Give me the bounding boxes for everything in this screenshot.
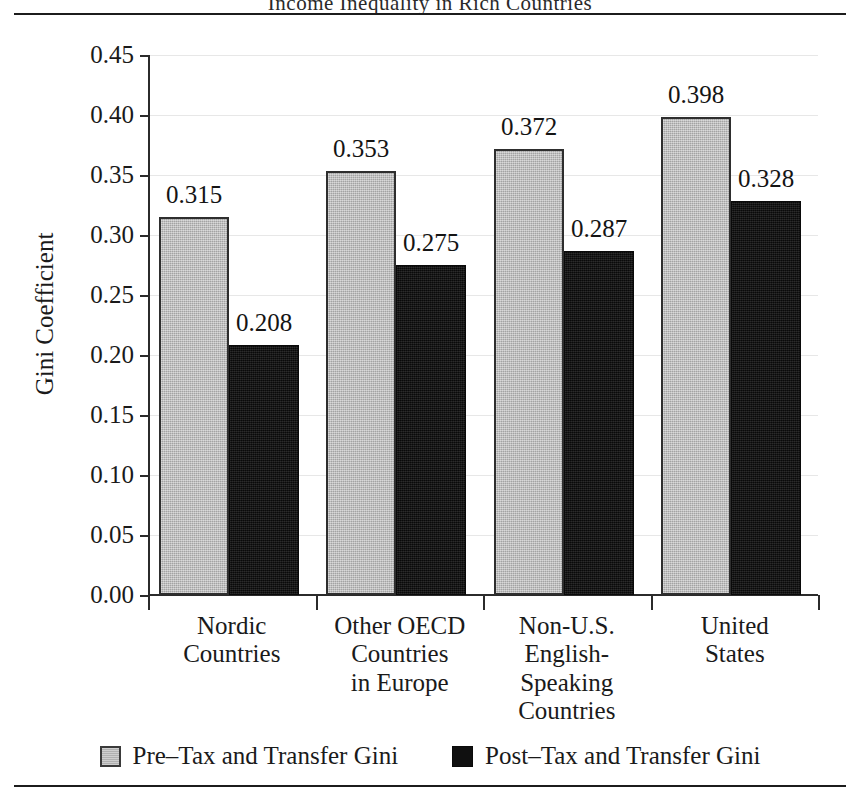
y-axis-tick-label: 0.05 bbox=[50, 522, 134, 547]
y-axis-tick-label-wrap: 0.25 bbox=[50, 282, 134, 308]
x-axis-tick bbox=[148, 595, 150, 610]
gini-bar-chart: Gini Coefficient 0.450.400.350.300.250.2… bbox=[0, 0, 860, 799]
y-axis-tick-label-wrap: 0.15 bbox=[50, 402, 134, 428]
legend-label-pre-tax: Pre–Tax and Transfer Gini bbox=[133, 742, 399, 770]
y-axis-tick-label: 0.10 bbox=[50, 462, 134, 487]
bar-post-tax bbox=[396, 265, 466, 595]
legend-item-post-tax: Post–Tax and Transfer Gini bbox=[452, 742, 760, 770]
y-axis-tick-label-wrap: 0.45 bbox=[50, 42, 134, 68]
chart-legend: Pre–Tax and Transfer Gini Post–Tax and T… bbox=[0, 742, 860, 770]
y-axis-tick-label: 0.00 bbox=[50, 582, 134, 607]
y-axis-tick-label-wrap: 0.30 bbox=[50, 222, 134, 248]
bar-value-label: 0.372 bbox=[474, 114, 584, 139]
y-axis-tick bbox=[140, 355, 149, 357]
y-axis-tick-label: 0.30 bbox=[50, 222, 134, 247]
y-axis-tick-label-wrap: 0.40 bbox=[50, 102, 134, 128]
bar-value-label: 0.353 bbox=[306, 136, 416, 161]
x-axis-category-label: Nordic Countries bbox=[148, 612, 316, 669]
bar-post-tax bbox=[731, 201, 801, 595]
y-axis-tick bbox=[140, 535, 149, 537]
x-axis-category-label: Other OECD Countries in Europe bbox=[316, 612, 484, 697]
bar-value-label: 0.328 bbox=[711, 166, 821, 191]
x-axis-tick bbox=[483, 595, 485, 610]
y-axis-tick bbox=[140, 55, 149, 57]
bar-value-label: 0.315 bbox=[139, 182, 249, 207]
y-axis-tick-label: 0.35 bbox=[50, 162, 134, 187]
x-axis-tick bbox=[316, 595, 318, 610]
x-axis-category-label: United States bbox=[651, 612, 819, 669]
bar-value-label: 0.275 bbox=[376, 230, 486, 255]
x-axis-tick bbox=[651, 595, 653, 610]
x-axis-category-label: Non-U.S. English- Speaking Countries bbox=[483, 612, 651, 725]
legend-item-pre-tax: Pre–Tax and Transfer Gini bbox=[100, 742, 399, 770]
y-axis-line bbox=[148, 55, 150, 596]
y-axis-tick bbox=[140, 295, 149, 297]
legend-label-post-tax: Post–Tax and Transfer Gini bbox=[485, 742, 760, 770]
bar-post-tax bbox=[229, 345, 299, 595]
y-axis-tick-label-wrap: 0.00 bbox=[50, 582, 134, 608]
y-axis-tick bbox=[140, 175, 149, 177]
y-axis-tick bbox=[140, 235, 149, 237]
y-axis-tick-label: 0.15 bbox=[50, 402, 134, 427]
y-axis-tick bbox=[140, 115, 149, 117]
bar-pre-tax bbox=[159, 217, 229, 595]
x-axis-tick bbox=[818, 595, 820, 610]
y-axis-tick bbox=[140, 475, 149, 477]
y-axis-tick-label: 0.45 bbox=[50, 42, 134, 67]
y-axis-tick-label-wrap: 0.10 bbox=[50, 462, 134, 488]
y-axis-tick-label: 0.20 bbox=[50, 342, 134, 367]
gridline bbox=[150, 55, 818, 56]
legend-swatch-gray-icon bbox=[100, 746, 121, 767]
y-axis-tick-label-wrap: 0.35 bbox=[50, 162, 134, 188]
bar-value-label: 0.208 bbox=[209, 310, 319, 335]
y-axis-tick-label: 0.40 bbox=[50, 102, 134, 127]
y-axis-tick-label-wrap: 0.05 bbox=[50, 522, 134, 548]
y-axis-tick-label: 0.25 bbox=[50, 282, 134, 307]
bar-post-tax bbox=[564, 251, 634, 595]
y-axis-tick bbox=[140, 415, 149, 417]
legend-swatch-black-icon bbox=[452, 746, 473, 767]
y-axis-tick-label-wrap: 0.20 bbox=[50, 342, 134, 368]
bar-value-label: 0.398 bbox=[641, 82, 751, 107]
bar-value-label: 0.287 bbox=[544, 216, 654, 241]
